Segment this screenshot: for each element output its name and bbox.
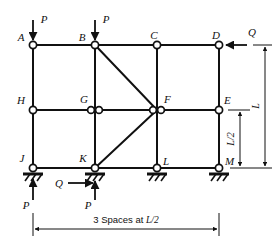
joint-a: [29, 41, 36, 48]
support-group: [23, 174, 229, 181]
member-diagonal-k-f: [95, 110, 157, 168]
load-label-p-at-j: P: [22, 199, 30, 211]
member-diagonal-b-f: [95, 45, 157, 110]
node-label-b: B: [79, 31, 86, 43]
joint-g-left: [88, 107, 95, 114]
node-label-l: L: [162, 155, 169, 167]
support-m: [209, 174, 229, 181]
support-k: [85, 174, 105, 181]
node-label-group: A B C D H G F E J K L M: [16, 29, 235, 167]
joint-d: [215, 41, 222, 48]
joint-f-left: [150, 107, 157, 114]
node-label-f: F: [163, 93, 171, 105]
node-label-c: C: [150, 29, 158, 41]
dimension-label-group: 3 Spaces at L/2 L/2 L: [93, 103, 261, 225]
node-label-j: J: [20, 152, 26, 164]
joint-c: [153, 41, 160, 48]
joint-f-right: [158, 107, 165, 114]
joint-b: [91, 41, 98, 48]
load-label-p-at-b: P: [102, 13, 110, 25]
node-label-k: K: [78, 152, 87, 164]
node-label-g: G: [80, 93, 88, 105]
frame-diagram-canvas: A B C D H G F E J K L M P P Q P Q: [0, 0, 276, 248]
support-l: [147, 174, 167, 181]
span-dimension-value: L/2: [145, 215, 159, 225]
load-label-p-at-k: P: [84, 199, 92, 211]
node-label-d: D: [211, 29, 220, 41]
node-label-e: E: [223, 94, 231, 106]
joint-g-right: [96, 107, 103, 114]
node-label-m: M: [224, 155, 235, 167]
structural-frame-diagram: A B C D H G F E J K L M P P Q P Q: [0, 0, 276, 248]
joint-j: [29, 164, 36, 171]
load-label-p-at-a: P: [40, 13, 48, 25]
joint-e: [215, 106, 222, 113]
span-dimension-label: 3 Spaces at L/2: [93, 214, 159, 225]
joint-k: [91, 164, 98, 171]
node-label-a: A: [17, 31, 25, 43]
full-height-dimension-label: L: [250, 103, 261, 110]
joint-h: [29, 106, 36, 113]
span-dimension-prefix: 3 Spaces at: [93, 214, 146, 225]
frame-members: [33, 45, 219, 168]
joint-l: [153, 164, 160, 171]
dimension-group: [33, 45, 272, 236]
load-label-q-at-d: Q: [248, 26, 256, 38]
load-label-q-at-k: Q: [55, 177, 63, 189]
half-height-dimension-label: L/2: [225, 132, 236, 146]
node-label-h: H: [16, 94, 26, 106]
joint-group: [29, 41, 222, 171]
joint-m: [215, 164, 222, 171]
